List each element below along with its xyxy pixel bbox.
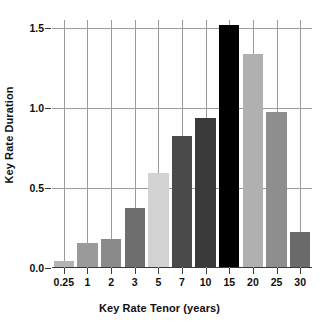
y-tick-mark [45, 188, 51, 189]
key-rate-duration-bar-chart: Key Rate Duration 0.00.51.01.5 0.2512357… [0, 0, 319, 329]
gridline-vertical [87, 20, 88, 268]
y-axis-tick-labels: 0.00.51.01.5 [14, 0, 44, 270]
x-tick-mark [277, 268, 278, 274]
x-axis: 0.25123571015202530 [52, 268, 312, 298]
x-tick-label: 7 [179, 277, 185, 288]
y-tick-mark [45, 108, 51, 109]
x-tick-mark [300, 268, 301, 274]
y-tick-label: 1.0 [18, 103, 44, 114]
bar-30 [290, 232, 310, 267]
x-tick-mark [158, 268, 159, 274]
bar-3 [125, 208, 145, 267]
bar-15 [219, 25, 239, 267]
x-axis-title: Key Rate Tenor (years) [0, 302, 319, 314]
x-tick-mark [229, 268, 230, 274]
gridline-vertical [300, 20, 301, 268]
gridline-vertical [111, 20, 112, 268]
x-tick-mark [111, 268, 112, 274]
x-tick-mark [182, 268, 183, 274]
bar-20 [243, 54, 263, 267]
x-tick-mark [206, 268, 207, 274]
x-tick-mark [253, 268, 254, 274]
bar-0.25 [54, 261, 74, 267]
x-tick-mark [135, 268, 136, 274]
y-tick-mark [45, 28, 51, 29]
x-tick-mark [64, 268, 65, 274]
x-tick-label: 3 [132, 277, 138, 288]
y-tick-mark [45, 268, 51, 269]
y-tick-label: 1.5 [18, 23, 44, 34]
y-tick-label: 0.5 [18, 183, 44, 194]
x-tick-label: 2 [108, 277, 114, 288]
gridline-vertical [64, 20, 65, 268]
x-tick-mark [87, 268, 88, 274]
x-tick-label: 1 [85, 277, 91, 288]
bar-1 [77, 243, 97, 267]
bar-2 [101, 239, 121, 267]
bar-10 [195, 118, 215, 267]
x-tick-label: 30 [294, 277, 306, 288]
bar-7 [172, 136, 192, 267]
x-tick-label: 0.25 [54, 277, 74, 288]
y-tick-label: 0.0 [18, 263, 44, 274]
x-tick-label: 15 [223, 277, 235, 288]
x-tick-label: 25 [271, 277, 283, 288]
plot-area [52, 20, 312, 268]
bar-5 [148, 173, 168, 267]
x-tick-label: 10 [200, 277, 212, 288]
x-tick-label: 5 [155, 277, 161, 288]
x-tick-label: 20 [247, 277, 259, 288]
bar-25 [266, 112, 286, 267]
